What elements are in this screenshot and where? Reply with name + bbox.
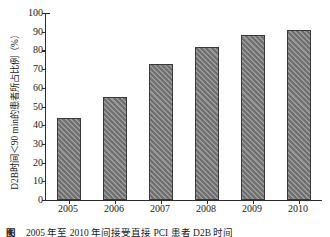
y-tick-label: 50 [19, 102, 43, 112]
bar [287, 30, 311, 200]
y-axis-tick-labels: 0102030405060708090100 [19, 8, 43, 201]
y-tick-mark [42, 144, 46, 145]
x-axis-tick-labels: 200520062007200820092010 [45, 203, 322, 217]
y-tick-label: 80 [19, 45, 43, 55]
y-tick-label: 70 [19, 64, 43, 74]
bar-chart-figure: D2B时间＜90 min的患者所占比例（%） 01020304050607080… [0, 0, 330, 237]
y-tick-mark [42, 88, 46, 89]
x-tick-label: 2010 [288, 203, 308, 214]
y-tick-label: 20 [19, 158, 43, 168]
y-tick-mark [42, 50, 46, 51]
y-tick-mark [42, 13, 46, 14]
bar [103, 97, 127, 200]
x-tick-label: 2006 [104, 203, 124, 214]
y-tick-mark [42, 32, 46, 33]
y-tick-label: 30 [19, 139, 43, 149]
figure-caption: 图2005 年至 2010 年间接受直接 PCI 患者 D2B 时间 [6, 228, 326, 237]
bar [149, 64, 173, 201]
bar [241, 35, 265, 200]
y-tick-mark [42, 163, 46, 164]
y-tick-mark [42, 107, 46, 108]
plot-area [45, 13, 322, 201]
x-tick-label: 2007 [150, 203, 170, 214]
x-tick-label: 2009 [242, 203, 262, 214]
y-tick-label: 0 [19, 195, 43, 205]
y-tick-label: 10 [19, 176, 43, 186]
y-tick-mark [42, 69, 46, 70]
y-tick-label: 90 [19, 27, 43, 37]
x-tick-label: 2005 [58, 203, 78, 214]
y-tick-label: 100 [19, 8, 43, 18]
y-tick-mark [42, 125, 46, 126]
x-tick-label: 2008 [196, 203, 216, 214]
y-tick-label: 60 [19, 83, 43, 93]
bar [195, 47, 219, 200]
y-tick-mark [42, 200, 46, 201]
caption-text: 2005 年至 2010 年间接受直接 PCI 患者 D2B 时间 [26, 228, 233, 237]
bar [57, 118, 81, 200]
caption-label: 图 [6, 228, 16, 237]
y-tick-mark [42, 181, 46, 182]
y-tick-label: 40 [19, 120, 43, 130]
